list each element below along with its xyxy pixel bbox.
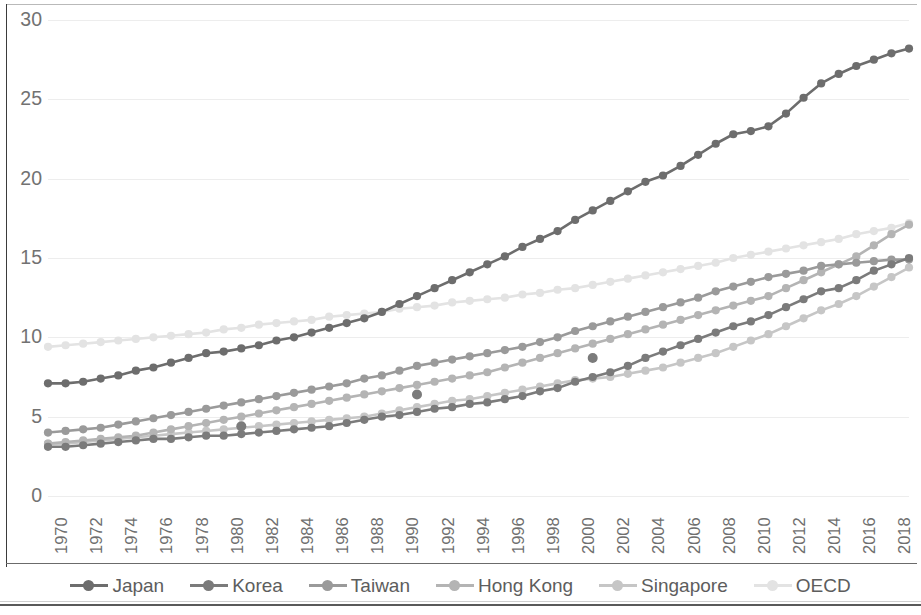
data-point [97,440,105,448]
data-point [518,290,526,298]
data-point [343,319,351,327]
data-point [799,241,807,249]
data-point [483,368,491,376]
data-point [343,394,351,402]
data-point [799,94,807,102]
data-point [378,371,386,379]
data-point [255,341,263,349]
data-point [553,227,561,235]
legend-item-korea[interactable]: Korea [190,576,283,595]
data-point [430,405,438,413]
data-point [852,292,860,300]
data-point [114,371,122,379]
data-point [413,303,421,311]
data-point [272,392,280,400]
data-point [237,344,245,352]
legend-item-oecd[interactable]: OECD [754,576,851,595]
data-point [887,49,895,57]
x-axis-tick-label: 1972 [88,517,105,554]
legend-label: Singapore [641,576,728,595]
data-point [852,62,860,70]
gridline [48,496,909,497]
data-point [518,392,526,400]
data-point [272,336,280,344]
x-axis-tick-label: 2006 [686,517,703,554]
data-point [167,425,175,433]
legend-item-hong-kong[interactable]: Hong Kong [436,576,573,595]
data-point [149,414,157,422]
data-point [694,262,702,270]
data-point [448,374,456,382]
data-point [641,354,649,362]
data-point [729,130,737,138]
data-point [501,395,509,403]
data-point [378,413,386,421]
legend-marker-icon [70,578,108,592]
data-point [659,321,667,329]
data-point [220,432,228,440]
data-point [501,252,509,260]
data-point [395,367,403,375]
data-point [430,284,438,292]
data-point [799,267,807,275]
x-axis-tick-label: 1988 [369,517,386,554]
data-point [782,270,790,278]
data-point [817,238,825,246]
data-point [149,435,157,443]
data-point [764,273,772,281]
data-point [747,336,755,344]
data-point [676,359,684,367]
data-point [237,398,245,406]
data-point [624,370,632,378]
data-point [202,432,210,440]
x-axis-tick-label: 1994 [475,517,492,554]
data-point [483,349,491,357]
data-point [729,302,737,310]
data-point [676,298,684,306]
data-point [501,294,509,302]
legend-item-japan[interactable]: Japan [70,576,164,595]
data-point [518,359,526,367]
data-point [395,300,403,308]
data-point [395,411,403,419]
data-point [782,322,790,330]
data-point [606,317,614,325]
data-point [220,416,228,424]
data-point [624,330,632,338]
data-point [606,335,614,343]
figure-top-rule [7,4,917,5]
data-point [413,381,421,389]
legend-item-taiwan[interactable]: Taiwan [309,576,410,595]
data-point [870,282,878,290]
data-point [325,324,333,332]
data-point [764,122,772,130]
data-point [782,303,790,311]
data-point [220,401,228,409]
x-axis-tick-label: 2014 [826,517,843,554]
series-taiwan [44,255,913,436]
x-axis-tick-label: 2012 [791,517,808,554]
data-point [518,343,526,351]
data-point [817,262,825,270]
data-point [553,333,561,341]
data-point [360,416,368,424]
data-point [747,278,755,286]
data-point [430,302,438,310]
data-point [307,316,315,324]
data-point [430,359,438,367]
data-point [729,343,737,351]
data-point [764,248,772,256]
legend-item-singapore[interactable]: Singapore [599,576,728,595]
x-axis-tick-label: 1976 [158,517,175,554]
data-point [202,419,210,427]
data-point [272,319,280,327]
data-point [835,300,843,308]
legend-marker-icon [436,578,474,592]
data-point [360,390,368,398]
data-point [641,325,649,333]
data-point [712,306,720,314]
data-point [712,349,720,357]
data-point [553,384,561,392]
data-point [184,354,192,362]
data-point [430,378,438,386]
